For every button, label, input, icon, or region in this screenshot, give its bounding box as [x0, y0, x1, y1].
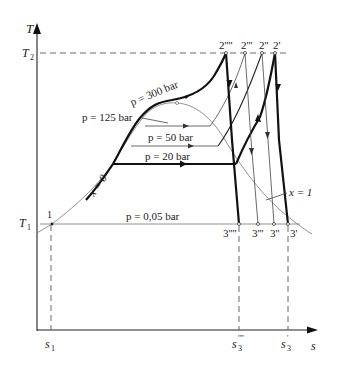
critical-point: [176, 102, 179, 105]
t2-label: T 2: [22, 46, 34, 62]
svg-text:2: 2: [30, 53, 34, 62]
point-1-marker: [51, 223, 54, 226]
isobar-50-bar-label: p = 50 bar: [148, 131, 193, 143]
isobar-50-bar-arrow-icon: [188, 144, 194, 149]
svg-text:1: 1: [27, 223, 31, 232]
expansion-2-triple-arrow-icon: [249, 148, 254, 155]
y-axis-label: T: [26, 21, 34, 36]
point-1-label: 1: [47, 209, 52, 220]
x1-label: x = 1: [288, 186, 312, 198]
expansion-2-double-arrow-icon: [265, 132, 270, 139]
svg-text:'''': '''': [238, 334, 244, 343]
s3-quad-label: s 3 '''': [232, 334, 244, 353]
isobar-20-bar-label: p = 20 bar: [145, 150, 190, 162]
s3-prime-label: s 3 ': [281, 334, 291, 353]
isobar-0-05-bar-label: p = 0,05 bar: [126, 210, 180, 222]
pump-line: [37, 224, 52, 233]
point-2-prime-label: 2': [273, 39, 281, 51]
t1-label: T 1: [19, 216, 31, 232]
svg-text:T: T: [19, 216, 27, 230]
s1-label: s 1: [45, 337, 55, 353]
svg-text:T: T: [22, 46, 30, 60]
point-3-double-label: 3'': [270, 227, 279, 239]
svg-text:3: 3: [238, 344, 242, 353]
isobar-125-arrow2-icon: [234, 82, 238, 88]
svg-text:1: 1: [51, 344, 55, 353]
svg-text:s: s: [45, 337, 50, 351]
svg-text:3: 3: [287, 344, 291, 353]
expansion-2-quad: [226, 53, 239, 224]
x-axis-label: s: [311, 339, 316, 353]
point-2-double-label: 2'': [259, 39, 268, 51]
isobar-300-bar: [113, 53, 226, 164]
state-points-3: 3'''' 3''' 3'' 3': [223, 223, 298, 240]
saturated-vapor-line: [177, 103, 312, 234]
isobar-125-bar-arrow-icon: [183, 124, 189, 129]
expansion-2-prime: [275, 53, 288, 224]
y-axis-arrow-icon: [33, 23, 41, 34]
point-3-triple-label: 3''': [252, 227, 263, 239]
isobar-300-bar-label: p = 300 bar: [128, 78, 180, 108]
point-2-quad-label: 2'''': [219, 39, 232, 51]
svg-text:s: s: [281, 337, 286, 351]
isobar-125-bar-label: p = 125 bar: [82, 111, 133, 123]
isobar-125-leader: [142, 118, 168, 123]
isobar-300-bar-arrow-icon: [184, 95, 190, 99]
point-3-prime-label: 3': [290, 227, 298, 239]
svg-text:': ': [287, 334, 289, 343]
point-3-quad-label: 3'''': [223, 227, 236, 239]
svg-text:s: s: [232, 337, 237, 351]
t-s-diagram: T s T 2 T 1 s 1 s 3 '''' s 3 ' p = 0,05 …: [0, 0, 338, 365]
x-axis-arrow-icon: [307, 327, 318, 334]
state-points-2: 2'''' 2''' 2'' 2': [219, 39, 281, 55]
point-2-triple-label: 2''': [241, 39, 252, 51]
x1-leader: [266, 193, 287, 200]
